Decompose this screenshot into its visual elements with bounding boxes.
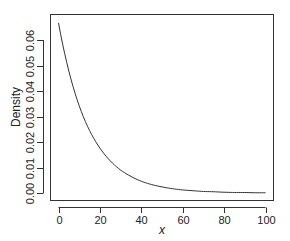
x-tick-label: 40 — [135, 214, 147, 226]
y-tick-label: 0.06 — [24, 30, 36, 51]
y-axis-label: Density — [9, 87, 23, 127]
y-tick-label: 0.01 — [24, 158, 36, 179]
y-tick-label: 0.05 — [24, 56, 36, 77]
y-tick-label: 0.02 — [24, 132, 36, 153]
x-tick-label: 20 — [94, 214, 106, 226]
y-tick-label: 0.04 — [24, 81, 36, 102]
x-tick-label: 60 — [177, 214, 189, 226]
density-chart: 0.000.010.020.030.040.050.06 02040608010… — [0, 0, 290, 241]
y-tick-label: 0.00 — [24, 183, 36, 204]
x-axis-label: x — [158, 223, 166, 237]
density-curve — [59, 23, 266, 193]
plot-frame — [51, 15, 274, 201]
y-axis: 0.000.010.020.030.040.050.06 — [24, 30, 44, 204]
x-axis: 020406080100 — [56, 208, 275, 227]
y-tick-label: 0.03 — [24, 107, 36, 128]
x-tick-label: 100 — [257, 214, 275, 226]
x-tick-label: 0 — [56, 214, 62, 226]
x-tick-label: 80 — [218, 214, 230, 226]
